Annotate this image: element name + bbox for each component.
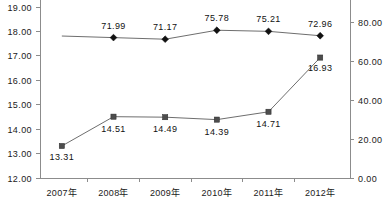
data-point-marker xyxy=(266,109,271,114)
x-axis-category-label: 2010年 xyxy=(202,187,233,198)
right-axis-tick-label: 80.00 xyxy=(358,18,383,28)
x-axis-category-label: 2008年 xyxy=(98,187,129,198)
data-point-label: 72.96 xyxy=(308,19,333,29)
data-point-marker xyxy=(163,115,168,120)
data-point-marker xyxy=(318,55,323,60)
left-axis-tick-label: 14.00 xyxy=(7,125,32,135)
data-point-marker xyxy=(265,28,272,35)
x-axis-category-label: 2007年 xyxy=(47,187,78,198)
data-point-label: 14.51 xyxy=(101,124,126,134)
x-axis-category-label: 2011年 xyxy=(254,187,284,198)
data-point-marker xyxy=(162,36,169,43)
left-axis-tick-label: 12.00 xyxy=(7,174,32,184)
data-point-label: 14.49 xyxy=(153,124,178,134)
data-point-marker xyxy=(214,117,219,122)
x-axis-category-label: 2012年 xyxy=(305,187,336,198)
data-point-marker xyxy=(111,114,116,119)
data-point-label: 71.99 xyxy=(101,21,126,31)
data-point-label: 14.39 xyxy=(205,127,230,137)
data-point-label: 14.71 xyxy=(256,119,281,129)
data-point-marker xyxy=(110,34,117,41)
chart-canvas: 12.0013.0014.0015.0016.0017.0018.0019.00… xyxy=(0,0,388,203)
data-point-label: 13.31 xyxy=(50,152,75,162)
left-axis-tick-label: 18.00 xyxy=(7,27,32,37)
left-axis-tick-label: 13.00 xyxy=(7,149,32,159)
data-point-marker xyxy=(213,27,220,34)
plot-axes xyxy=(40,0,350,178)
left-axis-tick-label: 19.00 xyxy=(7,3,32,13)
left-axis-tick-label: 16.00 xyxy=(7,76,32,86)
left-axis-tick-label: 17.00 xyxy=(7,51,32,61)
right-axis-tick-label: 60.00 xyxy=(358,57,383,67)
series-line-diamond-series xyxy=(62,30,320,39)
right-axis-tick-label: 40.00 xyxy=(358,96,383,106)
x-axis-category-label: 2009年 xyxy=(150,187,181,198)
data-point-marker xyxy=(59,143,64,148)
data-point-label: 75.21 xyxy=(256,14,281,24)
data-point-label: 71.17 xyxy=(153,22,178,32)
right-axis-tick-label: 20.00 xyxy=(358,135,383,145)
left-axis-tick-label: 15.00 xyxy=(7,100,32,110)
data-point-label: 16.93 xyxy=(308,63,333,73)
dual-axis-line-chart: 12.0013.0014.0015.0016.0017.0018.0019.00… xyxy=(0,0,388,203)
data-point-marker xyxy=(317,32,324,39)
right-axis-tick-label: 0.00 xyxy=(358,174,377,184)
data-point-label: 75.78 xyxy=(205,13,230,23)
